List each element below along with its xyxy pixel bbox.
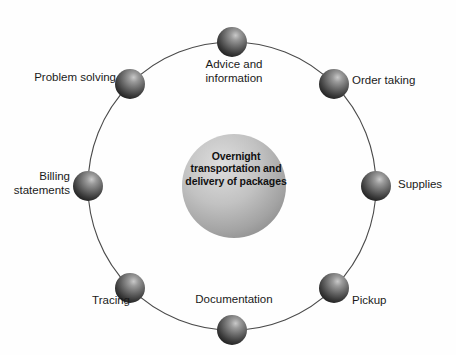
node-sphere-supplies[interactable] (361, 171, 391, 201)
node-sphere-pickup[interactable] (319, 273, 349, 303)
node-sphere-advice-and-information[interactable] (217, 27, 247, 57)
node-label-documentation: Documentation (176, 293, 292, 307)
node-sphere-documentation[interactable] (217, 315, 247, 345)
node-sphere-problem-solving[interactable] (115, 69, 145, 99)
node-sphere-billing-statements[interactable] (73, 171, 103, 201)
core-circle (182, 134, 286, 238)
node-label-problem-solving: Problem solving (16, 71, 116, 85)
node-label-tracing: Tracing (82, 294, 130, 308)
node-label-supplies: Supplies (398, 178, 456, 192)
node-sphere-order-taking[interactable] (319, 69, 349, 99)
node-label-pickup: Pickup (352, 294, 422, 308)
diagram-stage: Overnight transportation and delivery of… (0, 0, 456, 355)
service-circle-diagram: Overnight transportation and delivery of… (0, 0, 456, 355)
node-label-advice-and-information: Advice and information (188, 58, 280, 85)
node-label-order-taking: Order taking (352, 74, 452, 88)
node-label-billing-statements: Billing statements (2, 170, 70, 197)
